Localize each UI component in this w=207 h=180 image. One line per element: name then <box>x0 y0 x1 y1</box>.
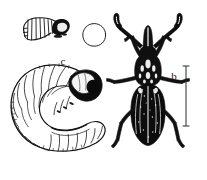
stage-larva: d <box>8 58 116 156</box>
scale-bar-drawing <box>178 62 194 130</box>
beetle-life-cycle-figure: c b <box>0 0 207 180</box>
pronotum <box>135 55 162 86</box>
pupa-drawing <box>18 12 72 46</box>
elytra <box>131 84 165 146</box>
stage-pupa: c <box>18 12 72 46</box>
larva-drawing <box>8 58 116 156</box>
scale-bar <box>178 62 194 130</box>
larva-head <box>69 70 102 101</box>
egg-drawing <box>80 22 108 48</box>
stage-egg: b <box>80 22 108 48</box>
